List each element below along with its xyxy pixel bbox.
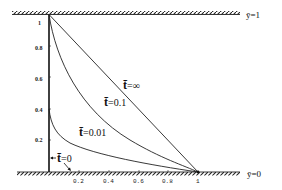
y-tick-label: 0.2 xyxy=(35,137,43,143)
bottom-wall xyxy=(17,172,240,176)
top-wall-label: ȳ=1 xyxy=(246,10,260,20)
x-tick-label: 0.4 xyxy=(103,178,114,185)
arrow-t-0-down xyxy=(64,163,71,171)
x-tick-label: 0.2 xyxy=(73,178,84,185)
bottom-wall-label: ȳ=0 xyxy=(247,169,262,179)
x-tick-label: 0.8 xyxy=(162,178,173,185)
moving-wall-point xyxy=(197,171,200,174)
y-tick-label: 1 xyxy=(38,20,41,26)
y-tick-label: 0.8 xyxy=(35,45,43,51)
velocity-profile-diagram: ȳ=1 ȳ=0 1 0.8 0.6 0.4 0.2 0.2 0.4 0.6 0.… xyxy=(0,0,282,190)
top-wall xyxy=(12,11,240,15)
label-t-infinity: t̄=∞ xyxy=(123,78,140,92)
label-t-0.01: t̄=0.01 xyxy=(79,125,106,139)
curve-t-infinity xyxy=(49,15,198,173)
x-tick-label: 1 xyxy=(196,178,200,185)
y-tick-label: 0.6 xyxy=(35,76,43,82)
y-tick-label: 0.4 xyxy=(35,107,43,113)
x-tick-label: 0.6 xyxy=(133,178,144,185)
label-t-0.1: t̄=0.1 xyxy=(104,95,126,109)
arrow-t-0-left xyxy=(50,157,56,160)
